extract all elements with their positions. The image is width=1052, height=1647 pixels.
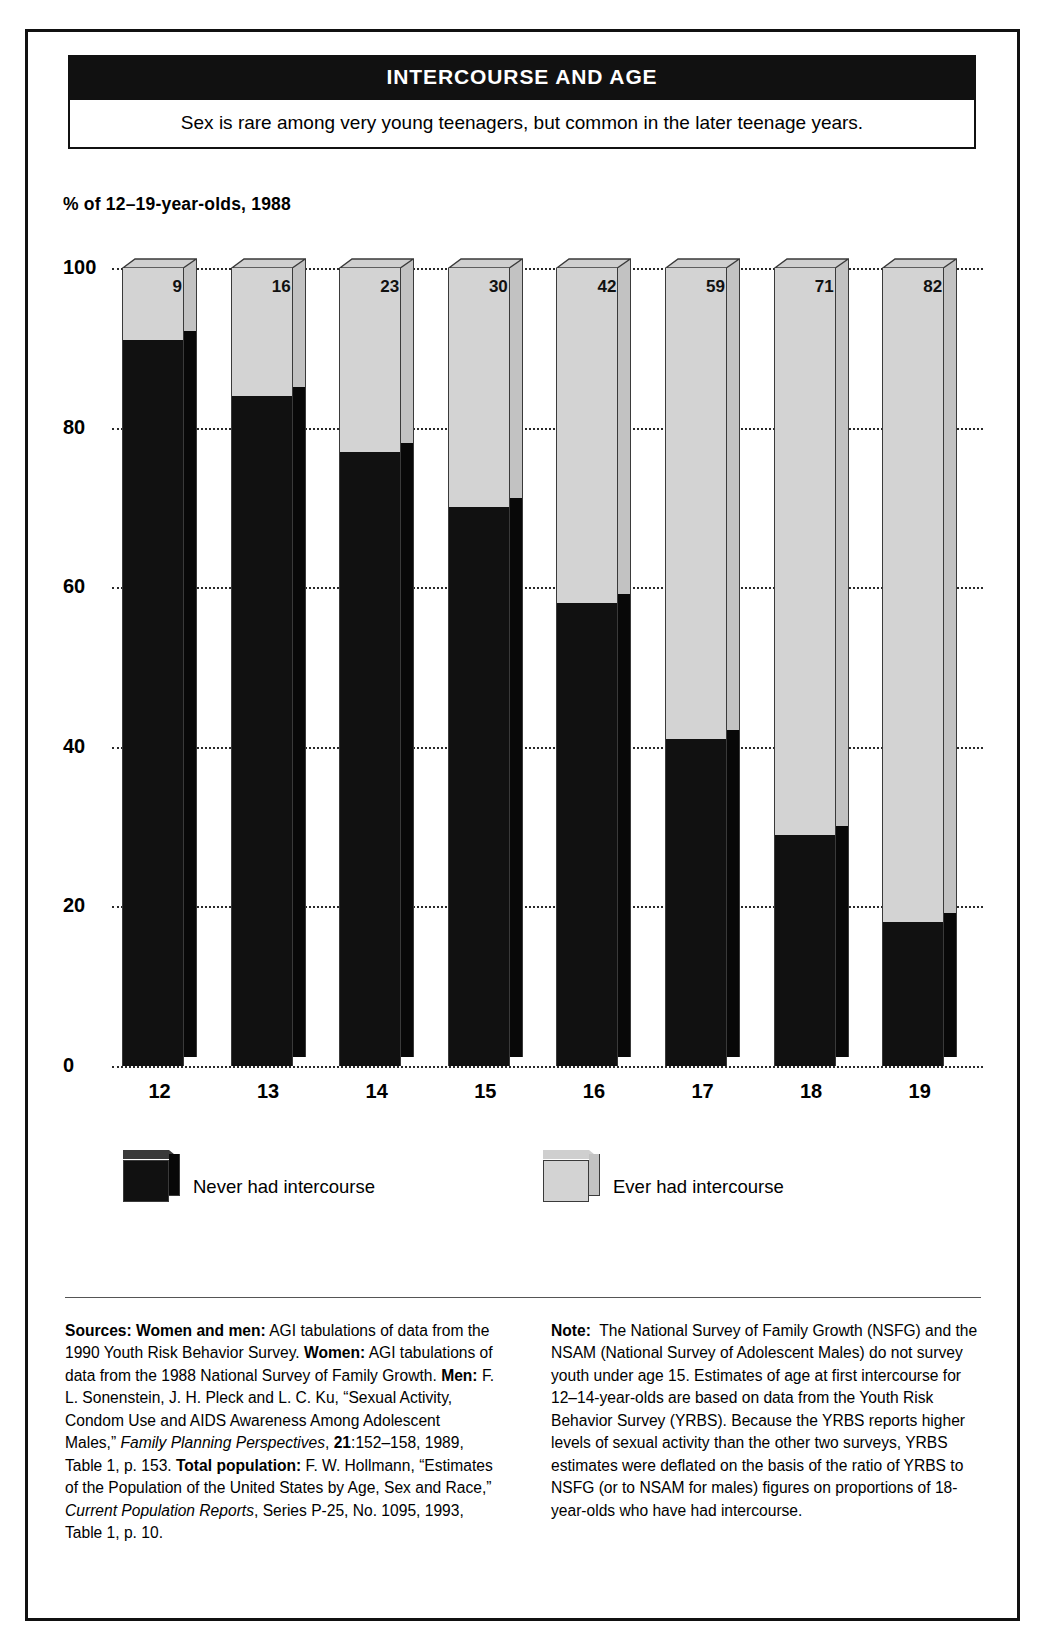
bar-column-age-14[interactable]: 23 [339,228,414,1123]
bar-segment-never [666,739,726,1066]
bar-side-face [727,259,740,1057]
bar-side-ever [618,259,630,594]
bar-value-label-19: 82 [923,278,942,295]
y-tick-100: 100 [63,257,107,277]
bar-front-face [665,268,727,1066]
x-tick-18: 18 [774,1080,849,1103]
bar-side-face [401,259,414,1057]
bar-column-age-13[interactable]: 16 [231,228,306,1123]
bar-segment-ever [666,268,726,739]
x-tick-15: 15 [448,1080,523,1103]
bar-value-label-13: 16 [272,278,291,295]
bar-13: 16 [231,268,306,1066]
footnote-divider [65,1297,981,1298]
bar-segment-ever [449,268,509,507]
bar-segment-never [232,396,292,1066]
bar-side-never [618,594,630,1057]
bar-side-ever [401,259,413,443]
bar-side-never [727,730,739,1057]
bar-segment-never [340,452,400,1066]
bar-column-age-18[interactable]: 71 [774,228,849,1123]
bar-segment-ever [883,268,943,922]
bar-front-face [448,268,510,1066]
chart-legend: Never had intercourse Ever had intercour… [63,1150,983,1224]
legend-item-ever: Ever had intercourse [543,1150,784,1202]
legend-item-never: Never had intercourse [123,1150,375,1202]
chart-title: INTERCOURSE AND AGE [68,55,976,100]
bar-value-label-15: 30 [489,278,508,295]
bar-side-face [618,259,631,1057]
y-tick-20: 20 [63,895,107,915]
bar-side-ever [727,259,739,730]
bar-side-ever [836,259,848,826]
bar-front-face [122,268,184,1066]
bar-segment-ever [775,268,835,835]
title-block: INTERCOURSE AND AGE Sex is rare among ve… [68,55,976,149]
x-tick-13: 13 [231,1080,306,1103]
bar-segment-never [557,603,617,1066]
bar-front-face [556,268,618,1066]
bar-side-never [836,826,848,1057]
bar-side-face [836,259,849,1057]
legend-swatch-ever-icon [543,1150,605,1202]
bar-front-face [774,268,836,1066]
y-axis-caption: % of 12–19-year-olds, 1988 [63,194,291,215]
bar-side-face [510,259,523,1057]
bar-16: 42 [556,268,631,1066]
bar-side-ever [944,259,956,913]
note-text: Note: The National Survey of Family Grow… [551,1320,981,1545]
bar-side-face [293,259,306,1057]
x-tick-12: 12 [122,1080,197,1103]
sources-text: Sources: Women and men: AGI tabulations … [65,1320,495,1545]
x-tick-14: 14 [339,1080,414,1103]
bar-column-age-19[interactable]: 82 [882,228,957,1123]
legend-label-never: Never had intercourse [193,1176,375,1202]
bar-column-age-15[interactable]: 30 [448,228,523,1123]
bar-series: 916233042597182 [112,228,983,1123]
y-tick-60: 60 [63,576,107,596]
bar-segment-never [883,922,943,1066]
bar-side-never [293,387,305,1057]
bar-19: 82 [882,268,957,1066]
bar-column-age-16[interactable]: 42 [556,228,631,1123]
y-tick-80: 80 [63,417,107,437]
x-tick-19: 19 [882,1080,957,1103]
bar-side-ever [510,259,522,498]
bar-side-never [510,498,522,1057]
y-tick-40: 40 [63,736,107,756]
chart-subtitle: Sex is rare among very young teenagers, … [68,100,976,149]
x-tick-16: 16 [556,1080,631,1103]
bar-12: 9 [122,268,197,1066]
bar-segment-never [449,507,509,1066]
footnotes: Sources: Women and men: AGI tabulations … [65,1320,981,1545]
bar-column-age-12[interactable]: 9 [122,228,197,1123]
bar-side-face [944,259,957,1057]
bar-side-ever [293,259,305,387]
bar-column-age-17[interactable]: 59 [665,228,740,1123]
bar-value-label-18: 71 [815,278,834,295]
bar-front-face [231,268,293,1066]
bar-18: 71 [774,268,849,1066]
bar-segment-ever [557,268,617,603]
bar-side-never [401,443,413,1057]
bar-side-never [944,913,956,1057]
bar-side-never [184,331,196,1057]
bar-value-label-14: 23 [380,278,399,295]
y-tick-0: 0 [63,1055,107,1075]
bar-value-label-16: 42 [597,278,616,295]
bar-side-face [184,259,197,1057]
x-tick-17: 17 [665,1080,740,1103]
bar-segment-never [123,340,183,1066]
cropped-caption-below-frame [33,1636,993,1647]
legend-label-ever: Ever had intercourse [613,1176,784,1202]
chart-frame: INTERCOURSE AND AGE Sex is rare among ve… [25,29,1020,1621]
plot-area: 020406080100 916233042597182 12131415161… [63,228,983,1123]
bar-14: 23 [339,268,414,1066]
bar-17: 59 [665,268,740,1066]
bar-front-face [339,268,401,1066]
bar-15: 30 [448,268,523,1066]
bar-front-face [882,268,944,1066]
bar-segment-never [775,835,835,1066]
bar-value-label-17: 59 [706,278,725,295]
bar-value-label-12: 9 [173,278,182,295]
